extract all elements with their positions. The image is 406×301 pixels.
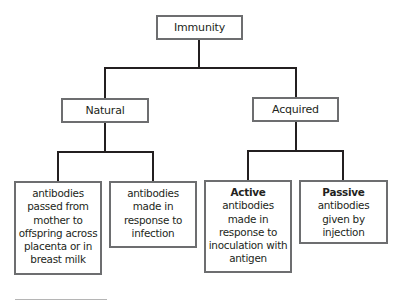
node-immunity: Immunity bbox=[156, 15, 243, 40]
connector-to-natural bbox=[104, 67, 106, 99]
node-natural-maternal: antibodies passed from mother to offspri… bbox=[14, 181, 102, 275]
connector-root-horizontal bbox=[104, 67, 297, 69]
leaf-line: placenta or in bbox=[16, 240, 100, 253]
leaf-line: made in bbox=[111, 200, 195, 213]
leaf-line: antibodies bbox=[111, 187, 195, 200]
node-immunity-label: Immunity bbox=[174, 21, 225, 34]
connector-to-active bbox=[247, 150, 249, 181]
node-acquired: Acquired bbox=[252, 97, 339, 122]
connector-acquired-down bbox=[295, 121, 297, 151]
connector-to-natural-child-2 bbox=[152, 151, 154, 182]
leaf-line: offspring across bbox=[16, 227, 100, 240]
leaf-line: given by bbox=[301, 213, 386, 226]
node-natural-infection: antibodies made in response to infection bbox=[109, 181, 197, 248]
leaf-line: antibodies bbox=[301, 199, 386, 212]
leaf-line: made in bbox=[206, 213, 290, 226]
connector-to-acquired bbox=[295, 67, 297, 99]
connector-acquired-horizontal bbox=[247, 150, 344, 152]
leaf-title: Passive bbox=[301, 186, 386, 199]
footer-rule bbox=[15, 299, 107, 300]
connector-to-passive bbox=[342, 150, 344, 181]
node-acquired-label: Acquired bbox=[272, 103, 319, 116]
connector-to-natural-child-1 bbox=[57, 151, 59, 182]
leaf-title: Active bbox=[206, 186, 290, 199]
leaf-line: injection bbox=[301, 226, 386, 239]
connector-root-down bbox=[198, 39, 200, 69]
node-natural: Natural bbox=[61, 98, 149, 123]
leaf-line: response to bbox=[111, 214, 195, 227]
leaf-line: antibodies bbox=[206, 199, 290, 212]
connector-natural-horizontal bbox=[57, 151, 154, 153]
node-acquired-active: Active antibodies made in response to in… bbox=[204, 180, 292, 273]
connector-natural-down bbox=[104, 122, 106, 152]
leaf-line: antigen bbox=[206, 252, 290, 265]
leaf-line: response to bbox=[206, 226, 290, 239]
leaf-line: antibodies bbox=[16, 187, 100, 200]
leaf-line: passed from bbox=[16, 200, 100, 213]
node-natural-label: Natural bbox=[85, 104, 124, 117]
node-acquired-passive: Passive antibodies given by injection bbox=[299, 180, 388, 244]
leaf-line: inoculation with bbox=[206, 239, 290, 252]
leaf-line: breast milk bbox=[16, 253, 100, 266]
leaf-line: mother to bbox=[16, 214, 100, 227]
leaf-line: infection bbox=[111, 227, 195, 240]
